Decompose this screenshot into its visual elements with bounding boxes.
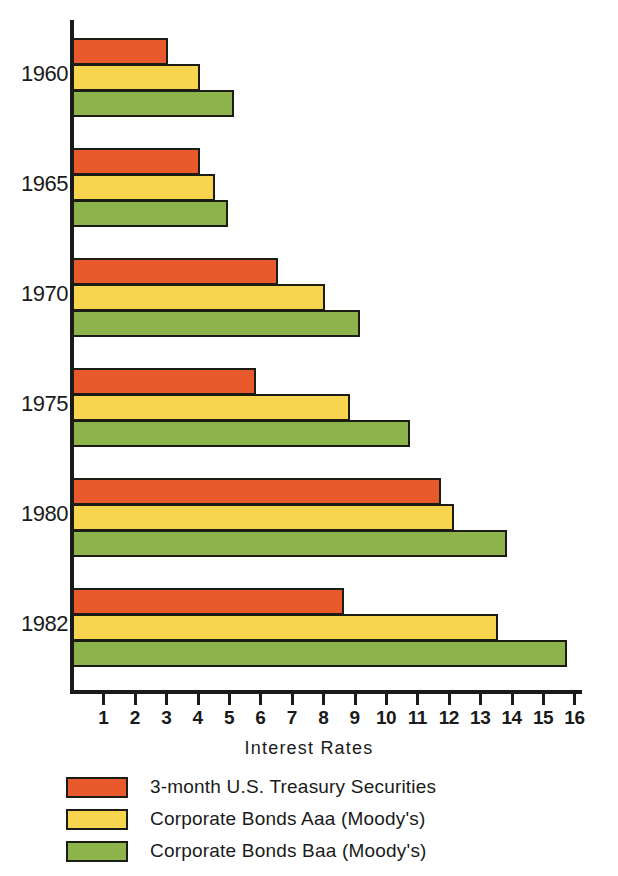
x-tick	[448, 694, 451, 705]
x-tick-label: 15	[533, 707, 553, 729]
legend-label: 3-month U.S. Treasury Securities	[150, 776, 436, 798]
x-tick	[102, 694, 105, 705]
x-tick	[385, 694, 388, 705]
bar	[72, 588, 344, 615]
bar	[72, 504, 454, 531]
x-tick-label: 9	[350, 707, 360, 729]
legend-item: 3-month U.S. Treasury Securities	[66, 772, 566, 802]
x-tick-label: 16	[564, 707, 584, 729]
year-label: 1960	[6, 61, 72, 87]
x-tick	[259, 694, 262, 705]
x-tick-label: 8	[318, 707, 328, 729]
bar-group: 1980	[0, 478, 618, 558]
bar	[72, 420, 410, 447]
legend-swatch	[66, 841, 128, 862]
year-label-wrap: 1965	[0, 148, 72, 227]
bar-chart: 12345678910111213141516 1960196519701975…	[0, 0, 618, 876]
x-tick-label: 10	[376, 707, 396, 729]
x-tick	[134, 694, 137, 705]
bar-group: 1965	[0, 148, 618, 228]
x-tick	[197, 694, 200, 705]
legend-item: Corporate Bonds Aaa (Moody's)	[66, 804, 566, 834]
year-label: 1965	[6, 171, 72, 197]
x-tick	[354, 694, 357, 705]
year-label: 1975	[6, 391, 72, 417]
x-tick	[573, 694, 576, 705]
legend-swatch	[66, 809, 128, 830]
x-tick-label: 2	[130, 707, 140, 729]
bar-group: 1970	[0, 258, 618, 338]
x-tick-label: 12	[439, 707, 459, 729]
x-tick	[291, 694, 294, 705]
x-tick	[511, 694, 514, 705]
x-tick-label: 14	[502, 707, 522, 729]
chart-legend: 3-month U.S. Treasury SecuritiesCorporat…	[66, 772, 566, 868]
x-tick	[322, 694, 325, 705]
bar	[72, 478, 441, 505]
bar-group: 1982	[0, 588, 618, 668]
legend-item: Corporate Bonds Baa (Moody's)	[66, 836, 566, 866]
year-label-wrap: 1982	[0, 588, 72, 667]
x-tick-label: 1	[98, 707, 108, 729]
x-tick-label: 3	[161, 707, 171, 729]
x-tick-label: 5	[224, 707, 234, 729]
bar	[72, 614, 498, 641]
bar	[72, 640, 567, 667]
bar	[72, 148, 200, 175]
bar	[72, 200, 228, 227]
x-tick-label: 6	[255, 707, 265, 729]
year-label: 1982	[6, 611, 72, 637]
bar-group: 1975	[0, 368, 618, 448]
bar	[72, 368, 256, 395]
x-tick	[165, 694, 168, 705]
bar	[72, 64, 200, 91]
x-tick-label: 7	[287, 707, 297, 729]
x-tick	[542, 694, 545, 705]
legend-swatch	[66, 777, 128, 798]
x-axis-line	[70, 690, 582, 694]
x-tick	[416, 694, 419, 705]
bar	[72, 258, 278, 285]
year-label-wrap: 1970	[0, 258, 72, 337]
year-label: 1970	[6, 281, 72, 307]
year-label: 1980	[6, 501, 72, 527]
legend-label: Corporate Bonds Baa (Moody's)	[150, 840, 427, 862]
bar	[72, 530, 507, 557]
plot-area: 12345678910111213141516 1960196519701975…	[0, 0, 618, 700]
year-label-wrap: 1980	[0, 478, 72, 557]
year-label-wrap: 1975	[0, 368, 72, 447]
x-axis-title: Interest Rates	[0, 738, 618, 759]
bar-group: 1960	[0, 38, 618, 118]
bar	[72, 284, 325, 311]
x-tick	[228, 694, 231, 705]
bar	[72, 38, 168, 65]
x-tick-label: 13	[470, 707, 490, 729]
x-tick-label: 4	[193, 707, 203, 729]
year-label-wrap: 1960	[0, 38, 72, 117]
legend-label: Corporate Bonds Aaa (Moody's)	[150, 808, 426, 830]
x-tick-label: 11	[408, 707, 427, 729]
bar	[72, 90, 234, 117]
x-tick	[479, 694, 482, 705]
bar	[72, 394, 350, 421]
bar	[72, 310, 360, 337]
bar	[72, 174, 215, 201]
